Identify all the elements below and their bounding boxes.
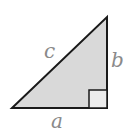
- label-b: b: [111, 48, 124, 72]
- label-c: c: [44, 39, 55, 63]
- right-angle-marker: [89, 90, 107, 108]
- label-a: a: [51, 109, 63, 129]
- right-triangle-diagram: c b a: [0, 0, 124, 129]
